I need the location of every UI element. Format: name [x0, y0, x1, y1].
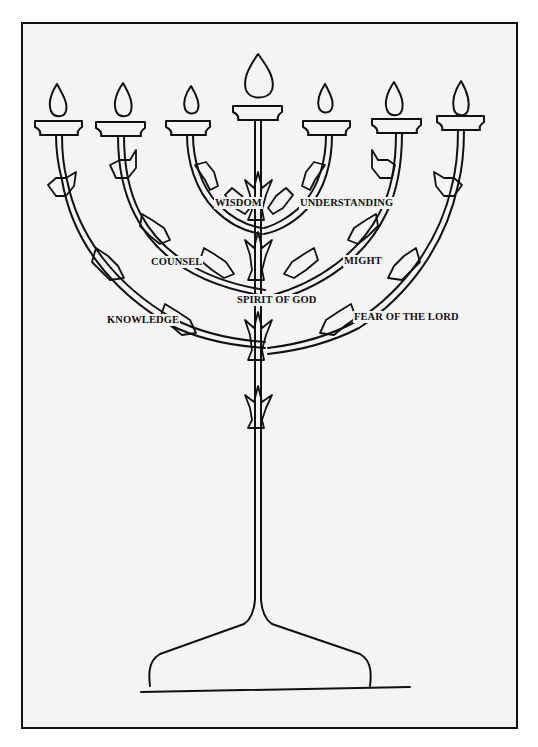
- base-line: [141, 687, 410, 692]
- label-wisdom: WISDOM: [214, 197, 263, 209]
- label-spirit-of-god: SPIRIT OF GOD: [236, 294, 317, 306]
- label-might: MIGHT: [343, 255, 383, 267]
- label-counsel: COUNSEL: [150, 256, 203, 268]
- lamp-cups: [35, 106, 484, 136]
- label-fear-of-the-lord: FEAR OF THE LORD: [353, 311, 460, 323]
- label-understanding: UNDERSTANDING: [299, 197, 394, 209]
- label-knowledge: KNOWLEDGE: [106, 314, 180, 326]
- menorah-illustration: [0, 0, 538, 747]
